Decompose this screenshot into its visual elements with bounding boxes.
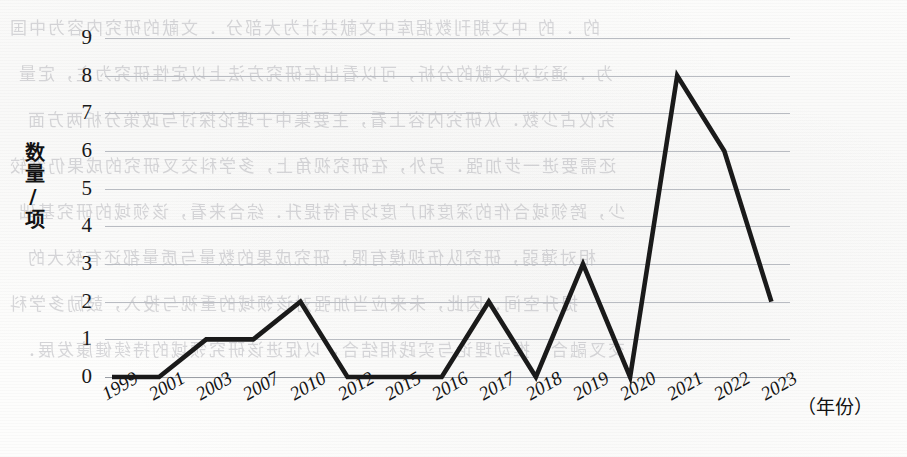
line-chart: 0123456789 数量/项 199920012003200720102012… xyxy=(0,0,907,457)
series-svg xyxy=(0,0,907,457)
data-series-line xyxy=(112,76,771,377)
